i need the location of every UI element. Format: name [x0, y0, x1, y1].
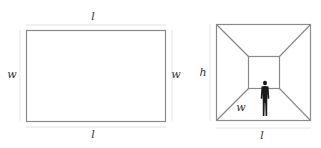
bottom-length-label: l	[91, 128, 95, 141]
floor-plan: l l w w	[7, 10, 181, 141]
floor-rectangle	[27, 31, 166, 122]
ceiling-edge-right	[280, 25, 311, 57]
left-width-label: w	[7, 68, 17, 81]
right-width-label: w	[171, 68, 181, 81]
height-label: h	[199, 66, 206, 79]
room-perspective: h w l	[199, 24, 311, 142]
top-length-label: l	[91, 10, 95, 23]
human-figure-icon	[261, 81, 270, 116]
diagram-canvas: l l w w h w l	[0, 0, 321, 148]
length-label: l	[260, 129, 264, 142]
floor-edge-right	[280, 89, 311, 121]
width-label: w	[236, 101, 246, 114]
ceiling-edge-left	[217, 25, 249, 57]
